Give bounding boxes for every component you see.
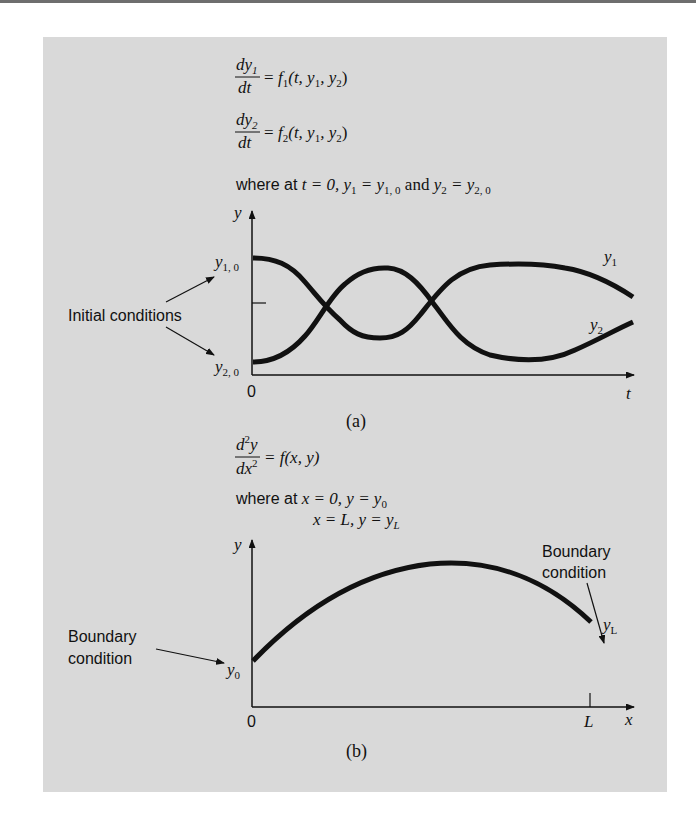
svg-text:d2y: d2y	[236, 433, 258, 454]
svg-text:x = L, y = yL: x = L, y = yL	[312, 510, 400, 531]
caption-a: (a)	[346, 411, 366, 432]
arrow-to-yL	[587, 583, 604, 643]
curve-y2-label: y2	[588, 315, 603, 336]
caption-b: (b)	[346, 741, 367, 762]
boundary-condition-statement: where at x = 0, y = y0 x = L, y = yL	[235, 489, 400, 531]
curve-b	[253, 563, 591, 661]
svg-text:dt: dt	[238, 78, 253, 97]
arrow-to-y10	[166, 277, 214, 302]
svg-text:dt: dt	[238, 133, 253, 152]
yL-label: yL	[601, 615, 618, 636]
equation-b: d2y dx2 = f(x, y)	[235, 433, 320, 478]
svg-text:where at t = 0, y1 = y1, 0 and: where at t = 0, y1 = y1, 0 and y2 = y2, …	[235, 175, 491, 196]
origin-label-b: 0	[247, 713, 256, 730]
boundary-annotation-right-line2: condition	[542, 564, 606, 581]
boundary-annotation-right-line1: Boundary	[542, 543, 611, 560]
equation-1: dy1 dt = f1(t, y1, y2)	[235, 55, 347, 97]
y10-label: y1, 0	[213, 252, 240, 273]
t-axis-label: t	[626, 384, 632, 403]
equation-2: dy2 dt = f2(t, y1, y2)	[235, 110, 347, 152]
svg-text:dy2: dy2	[236, 110, 258, 131]
svg-text:f2(t, y1, y2): f2(t, y1, y2)	[278, 123, 347, 144]
svg-text:=: =	[264, 68, 274, 87]
initial-conditions-annotation: Initial conditions	[68, 307, 182, 324]
svg-text:dy1: dy1	[236, 55, 258, 76]
boundary-annotation-left-line1: Boundary	[68, 628, 137, 645]
svg-text:= f(x, y): = f(x, y)	[264, 448, 320, 467]
figure-svg: dy1 dt = f1(t, y1, y2) dy2 dt = f2(t, y1…	[0, 0, 696, 832]
svg-text:f1(t, y1, y2): f1(t, y1, y2)	[278, 68, 347, 89]
plot-a: y t 0 y1, 0 y2, 0 y1 y2 Initial conditio…	[68, 203, 634, 432]
y20-label: y2, 0	[213, 357, 240, 378]
curve-y2	[253, 268, 633, 362]
x-axis-label-b: x	[624, 710, 633, 729]
boundary-annotation-left-line2: condition	[68, 650, 132, 667]
curve-y1-label: y1	[602, 247, 617, 268]
y0-label: y0	[225, 660, 241, 681]
origin-label-a: 0	[247, 383, 256, 400]
svg-text:dx2: dx2	[236, 457, 258, 478]
L-label: L	[583, 712, 593, 731]
svg-text:where at x = 0, y = y0: where at x = 0, y = y0	[235, 489, 387, 510]
initial-condition-statement: where at t = 0, y1 = y1, 0 and y2 = y2, …	[235, 175, 491, 196]
arrow-to-y20	[166, 327, 214, 355]
y-axis-label-b: y	[232, 535, 242, 554]
y-axis-label-a: y	[232, 203, 242, 222]
plot-b: y x 0 L y0 yL Boundary condition Boundar…	[68, 535, 634, 762]
svg-text:=: =	[264, 123, 274, 142]
arrow-to-y0	[156, 649, 224, 663]
